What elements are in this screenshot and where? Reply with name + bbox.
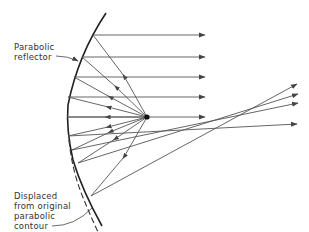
displaced-contour-label: Displaced from original parabolic contou… bbox=[14, 191, 71, 231]
reflector-leader-line bbox=[56, 56, 78, 61]
diverging-rays bbox=[68, 84, 298, 196]
displaced-label-line3: parabolic bbox=[14, 211, 55, 221]
original-contour-dashed bbox=[69, 140, 98, 232]
parabolic-reflector-label: Parabolic reflector bbox=[14, 42, 54, 62]
focal-point bbox=[144, 114, 149, 119]
reflector-label-line1: Parabolic bbox=[14, 42, 54, 52]
collimated-rays bbox=[67, 35, 205, 117]
displaced-label-line4: contour bbox=[14, 221, 48, 231]
reflector-label-line2: reflector bbox=[14, 52, 52, 62]
displaced-label-line1: Displaced bbox=[14, 191, 57, 201]
displaced-label-line2: from original bbox=[14, 201, 71, 211]
